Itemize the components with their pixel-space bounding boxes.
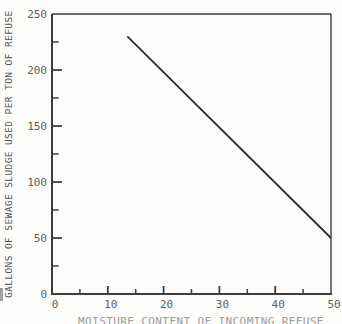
x-tick-label: 20 (160, 298, 173, 311)
data-line-sewage-sludge-usage (127, 36, 331, 238)
y-tick-label: 250 (27, 8, 47, 21)
x-tick-label: 40 (272, 298, 285, 311)
x-tick-label: 30 (216, 298, 229, 311)
y-tick-label: 200 (27, 64, 47, 77)
y-tick-label: 150 (27, 120, 47, 133)
y-tick-label: 50 (34, 232, 47, 245)
x-axis-caption: MOISTURE CONTENT OF INCOMING REFUSE (70, 315, 332, 324)
y-tick-label: 100 (27, 176, 47, 189)
y-tick-label: 0 (40, 288, 47, 301)
x-tick-label: 0 (52, 298, 59, 311)
chart-figure: GALLONS OF SEWAGE SLUDGE USED PER TON OF… (0, 0, 342, 324)
scan-artifact-mark (0, 288, 3, 301)
plot-area: 05010015020025001020304050 (0, 0, 342, 324)
x-tick-label: 10 (104, 298, 117, 311)
x-tick-label: 50 (327, 298, 340, 311)
